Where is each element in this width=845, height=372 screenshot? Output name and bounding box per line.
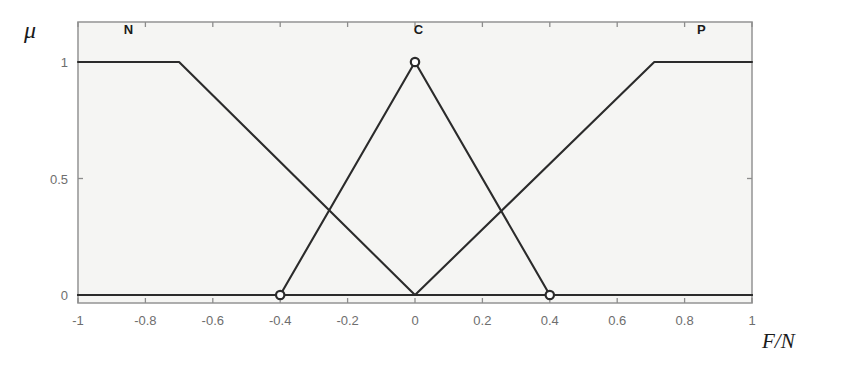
set-label-n: N [124, 22, 133, 37]
data-point-marker [411, 58, 419, 66]
x-tick-label: -0.8 [134, 313, 156, 328]
x-tick-label: 0.4 [541, 313, 559, 328]
x-tick-label: -0.6 [202, 313, 224, 328]
x-tick-label: -0.4 [269, 313, 291, 328]
membership-function-chart: -1-0.8-0.6-0.4-0.200.20.40.60.81 00.51 N… [0, 0, 845, 372]
figure-page: -1-0.8-0.6-0.4-0.200.20.40.60.81 00.51 N… [0, 0, 845, 372]
data-point-marker [276, 291, 284, 299]
x-tick-label: 0.2 [473, 313, 491, 328]
x-tick-label: 0.6 [608, 313, 626, 328]
y-tick-label: 0.5 [50, 172, 68, 187]
x-axis-title: F/N [761, 329, 796, 353]
x-tick-label: 1 [748, 313, 755, 328]
x-tick-label: -1 [72, 313, 84, 328]
data-point-marker [546, 291, 554, 299]
y-axis-title: μ [23, 17, 36, 43]
set-label-p: P [697, 22, 706, 37]
x-tick-label: 0.8 [676, 313, 694, 328]
x-tick-label: 0 [411, 313, 418, 328]
x-tick-label: -0.2 [336, 313, 358, 328]
y-tick-label: 0 [61, 288, 68, 303]
y-tick-label: 1 [61, 55, 68, 70]
set-label-c: C [414, 22, 424, 37]
